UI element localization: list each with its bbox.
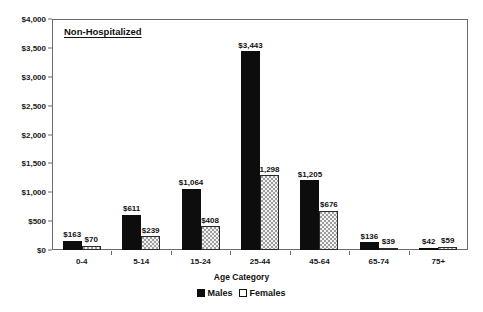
bar-group: $3,4431,298 [241,19,279,250]
bar-group: $611$239 [122,19,160,250]
y-axis-tick-label: $2,000 [22,130,46,139]
bars-layer: $163$70$611$239$1,064$408$3,4431,298$1,2… [52,19,468,250]
bar-chart: $0$500$1,000$1,500$2,000$2,500$3,000$3,5… [0,0,483,312]
bar-females-75+ [438,247,457,250]
bar-group: $1,064$408 [182,19,220,250]
bar-value-label: $136 [360,232,378,241]
bar-value-label: $239 [142,226,160,235]
bar-value-label: $163 [63,230,81,239]
x-axis-tick-label: 25-44 [250,257,270,266]
legend-item-females[interactable]: Females [239,288,285,298]
x-axis-tick-mark [409,251,410,255]
bar-value-label: $1,205 [298,170,322,179]
bar-value-label: $408 [201,216,219,225]
y-axis-tick-label: $3,500 [22,43,46,52]
bar-group: $42$59 [419,19,457,250]
bar-value-label: $676 [320,200,338,209]
x-axis-tick-label: 0-4 [76,257,88,266]
y-axis-tick-label: $4,000 [22,15,46,24]
bar-males-0-4 [63,241,82,250]
bar-females-45-64 [319,211,338,250]
y-axis-tick-label: $3,000 [22,72,46,81]
legend-swatch-icon [239,289,247,297]
legend-item-males[interactable]: Males [197,288,232,298]
x-axis-tick-mark [230,251,231,255]
y-axis: $0$500$1,000$1,500$2,000$2,500$3,000$3,5… [0,19,52,250]
y-axis-tick-label: $2,500 [22,101,46,110]
bar-females-0-4 [82,246,101,250]
bar-value-label: $611 [123,204,140,213]
x-axis-tick-label: 75+ [431,257,445,266]
bar-males-5-14 [122,215,141,250]
x-axis: 0-45-1415-2425-4445-6465-7475+ [52,251,468,271]
bar-females-15-24 [201,226,220,250]
bar-value-label: 1,298 [259,165,279,174]
bar-females-25-44 [260,175,279,250]
legend-label: Females [249,288,285,298]
x-axis-tick-mark [349,251,350,255]
x-axis-tick-label: 45-64 [309,257,329,266]
bar-females-65-74 [379,248,398,251]
x-axis-tick-mark [171,251,172,255]
bar-value-label: $70 [85,235,98,244]
x-axis-tick-label: 15-24 [190,257,210,266]
bar-value-label: $59 [441,236,454,245]
legend-label: Males [207,288,232,298]
bar-group: $136$39 [360,19,398,250]
bar-value-label: $42 [422,237,435,246]
y-axis-tick-label: $1,000 [22,188,46,197]
bar-males-75+ [419,248,438,251]
bar-males-45-64 [300,180,319,250]
bar-females-5-14 [141,236,160,250]
chart-legend: MalesFemales [0,288,483,298]
x-axis-tick-mark [290,251,291,255]
x-axis-title: Age Category [0,272,483,282]
bar-males-15-24 [182,189,201,250]
x-axis-tick-mark [111,251,112,255]
bar-males-25-44 [241,51,260,250]
legend-swatch-icon [197,289,205,297]
bar-value-label: $39 [382,237,395,246]
bar-males-65-74 [360,242,379,250]
bar-value-label: $3,443 [238,41,262,50]
y-axis-tick-label: $1,500 [22,159,46,168]
bar-group: $163$70 [63,19,101,250]
bar-group: $1,205$676 [300,19,338,250]
bar-value-label: $1,064 [179,178,203,187]
x-axis-tick-label: 65-74 [369,257,389,266]
y-axis-tick-label: $500 [28,217,46,226]
y-axis-tick-label: $0 [37,246,46,255]
x-axis-tick-label: 5-14 [133,257,149,266]
